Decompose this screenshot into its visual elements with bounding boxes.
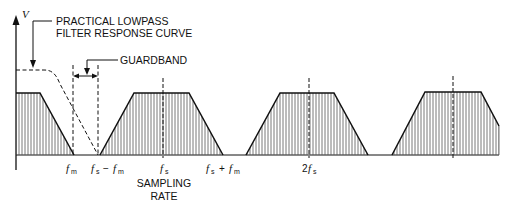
- tick-fm: f m: [66, 162, 77, 175]
- svg-text:m: m: [71, 168, 77, 175]
- svg-text:SAMPLING: SAMPLING: [137, 177, 191, 189]
- spectrum-baseband: [16, 93, 74, 155]
- guardband-right-arrow-icon: [92, 74, 98, 79]
- filter-label-line1: PRACTICAL LOWPASS: [56, 15, 169, 27]
- filter-label-line2: FILTER RESPONSE CURVE: [56, 27, 192, 39]
- leader-arrow-icon: [30, 60, 36, 68]
- guardband-leader-arrow-icon: [84, 68, 90, 75]
- svg-text:RATE: RATE: [150, 190, 177, 202]
- tick-fs-plus-fm: f s + f m: [206, 162, 240, 175]
- svg-text:s: s: [165, 168, 169, 175]
- spectrum-image-2fs: [246, 78, 368, 158]
- svg-text:+: +: [219, 163, 225, 174]
- spectrum-image-3fs: [392, 76, 499, 158]
- tick-fs-minus-fm: f s − f m: [91, 162, 124, 175]
- tick-2fs: 2 f s: [302, 162, 317, 175]
- axis-arrow-icon: [13, 15, 20, 25]
- svg-text:s: s: [211, 168, 215, 175]
- guardband-label: GUARDBAND: [120, 54, 188, 66]
- spectrum-image-fs: [100, 78, 223, 158]
- y-axis-label: V: [22, 8, 30, 20]
- sampling-rate-label: SAMPLING RATE: [137, 177, 191, 202]
- svg-text:m: m: [118, 168, 124, 175]
- svg-text:s: s: [313, 168, 317, 175]
- sampling-spectrum-diagram: V PRACTICAL LOWPASS FILTER RESPONSE CURV…: [0, 0, 512, 209]
- tick-fs: f s: [160, 162, 169, 175]
- svg-text:m: m: [234, 168, 240, 175]
- svg-text:s: s: [96, 168, 100, 175]
- svg-text:−: −: [103, 163, 109, 174]
- guardband-left-arrow-icon: [73, 74, 79, 79]
